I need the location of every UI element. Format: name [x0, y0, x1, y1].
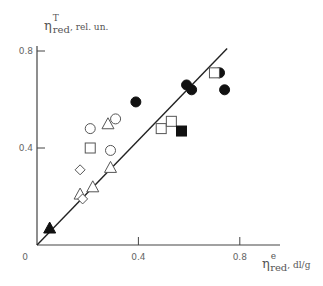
axis-labels: ηTred, rel. un. ηered, dl/g — [44, 13, 311, 273]
circle-marker — [220, 85, 230, 95]
square-marker — [176, 126, 186, 136]
x-tick-label: 0.8 — [233, 252, 248, 262]
triangle-marker — [105, 161, 117, 172]
circle-marker — [131, 97, 141, 107]
diamond-marker — [75, 165, 85, 175]
square-marker — [85, 143, 95, 153]
origin-label: 0 — [22, 252, 28, 262]
circle-marker — [111, 114, 121, 124]
y-tick-label: 0.4 — [19, 143, 34, 153]
reference-line — [37, 49, 227, 245]
circle-marker — [85, 124, 95, 134]
x-tick-label: 0.4 — [131, 252, 146, 262]
y-tick-label: 0.8 — [19, 46, 34, 56]
scatter-chart: 0.40.80.40.80 ηTred, rel. un. ηered, dl/… — [0, 0, 323, 286]
square-marker — [156, 124, 166, 134]
axes: 0.40.80.40.80 — [19, 46, 280, 262]
square-marker — [209, 68, 219, 78]
x-axis-label: ηered, dl/g — [262, 251, 311, 273]
circle-marker — [106, 145, 116, 155]
diagonal-line — [37, 49, 227, 245]
circle-marker — [187, 85, 197, 95]
data-points — [44, 68, 230, 233]
y-axis-label: ηTred, rel. un. — [44, 13, 108, 35]
square-marker — [166, 116, 176, 126]
